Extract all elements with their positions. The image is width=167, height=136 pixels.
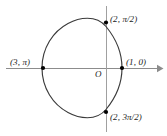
point-label-right: (1, 0): [126, 58, 146, 67]
point-top-marker: [104, 20, 108, 24]
polar-curve-figure: O (1, 0) (2, π/2) (3, π) (2, 3π/2): [0, 0, 167, 136]
point-bottom-marker: [104, 110, 108, 114]
x-axis-arrow-icon: [157, 65, 164, 72]
point-label-left: (3, π): [10, 58, 30, 67]
point-label-top: (2, π/2): [110, 15, 137, 24]
point-label-bottom: (2, 3π/2): [110, 113, 142, 122]
origin-label: O: [95, 70, 102, 79]
figure-canvas: [0, 0, 167, 136]
point-left-marker: [41, 66, 45, 70]
point-right-marker: [120, 66, 124, 70]
